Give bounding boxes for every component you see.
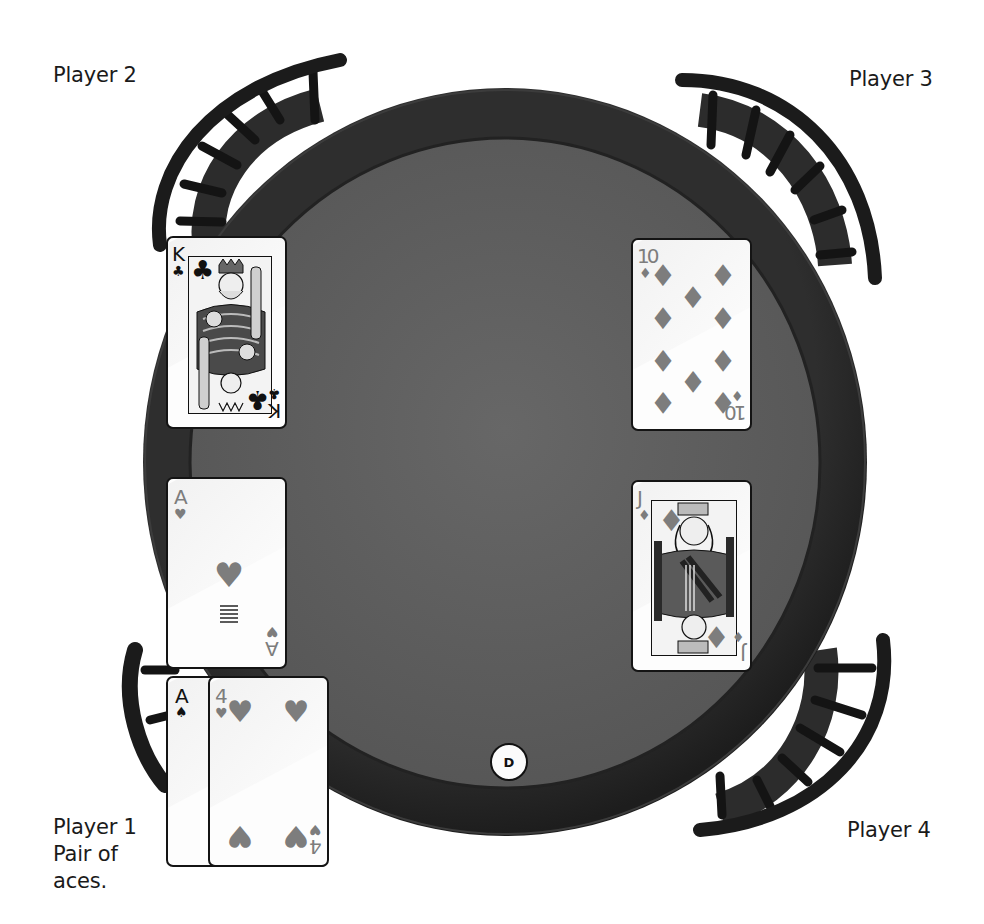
- diamond-icon: ♦: [658, 503, 685, 538]
- heart-icon: ♥: [174, 507, 187, 521]
- club-icon: ♣: [172, 264, 185, 278]
- diamond-icon: ♦: [680, 366, 707, 396]
- card-ace-of-hearts[interactable]: A ♥ ♥ ♥ A: [166, 477, 287, 669]
- player-1-hand-line1: Pair of: [53, 841, 137, 868]
- diamond-icon: ♦: [703, 620, 730, 655]
- card-rank: 4: [215, 686, 225, 706]
- player-1-name: Player 1: [53, 814, 137, 841]
- card-rank: 10: [727, 403, 746, 423]
- heart-icon: ♥: [283, 697, 310, 727]
- card-king-of-clubs[interactable]: K ♣ ♣ ♣ ♣ K: [166, 236, 287, 429]
- poker-table-scene: [0, 0, 984, 924]
- card-rank: K: [271, 401, 281, 421]
- jack-portrait: ♦ ♦: [651, 500, 737, 656]
- card-rank: A: [175, 686, 186, 706]
- club-icon: ♣: [191, 255, 214, 285]
- card-maker-mark: [220, 603, 238, 623]
- card-ten-of-diamonds[interactable]: 10 ♦ ♦ ♦ ♦ ♦ ♦ ♦ ♦ ♦ ♦ ♦ ♦ 10: [631, 238, 752, 431]
- player-3-label: Player 3: [849, 66, 933, 93]
- spade-icon: ♠: [175, 705, 188, 719]
- diamond-icon: ♦: [710, 304, 737, 334]
- diamond-icon: ♦: [650, 345, 677, 375]
- king-portrait: ♣ ♣: [188, 256, 272, 414]
- card-rank: A: [174, 487, 185, 507]
- heart-icon: ♥: [227, 821, 254, 851]
- card-jack-of-diamonds[interactable]: J ♦ ♦ ♦ ♦ J: [631, 480, 752, 672]
- card-rank: 4: [312, 837, 322, 857]
- heart-icon: ♥: [214, 560, 244, 590]
- diamond-icon: ♦: [680, 283, 707, 313]
- heart-icon: ♥: [283, 821, 310, 851]
- diamond-icon: ♦: [710, 261, 737, 291]
- dealer-button: D: [490, 743, 528, 781]
- card-rank: A: [268, 639, 279, 659]
- player-4-label: Player 4: [847, 817, 931, 844]
- heart-icon: ♥: [227, 697, 254, 727]
- diamond-icon: ♦: [638, 508, 651, 522]
- card-rank: K: [172, 244, 182, 264]
- diamond-icon: ♦: [710, 345, 737, 375]
- card-rank: J: [637, 488, 640, 508]
- player-2-label: Player 2: [53, 62, 137, 89]
- diamond-icon: ♦: [650, 387, 677, 417]
- club-icon: ♣: [246, 385, 269, 415]
- player-1-label: Player 1 Pair of aces.: [53, 814, 137, 895]
- card-rank: J: [743, 644, 746, 664]
- diamond-icon: ♦: [650, 304, 677, 334]
- player-1-hand-line2: aces.: [53, 868, 137, 895]
- diamond-icon: ♦: [650, 261, 677, 291]
- card-four-of-hearts[interactable]: 4 ♥ ♥ ♥ ♥ ♥ ♥ 4: [208, 676, 329, 867]
